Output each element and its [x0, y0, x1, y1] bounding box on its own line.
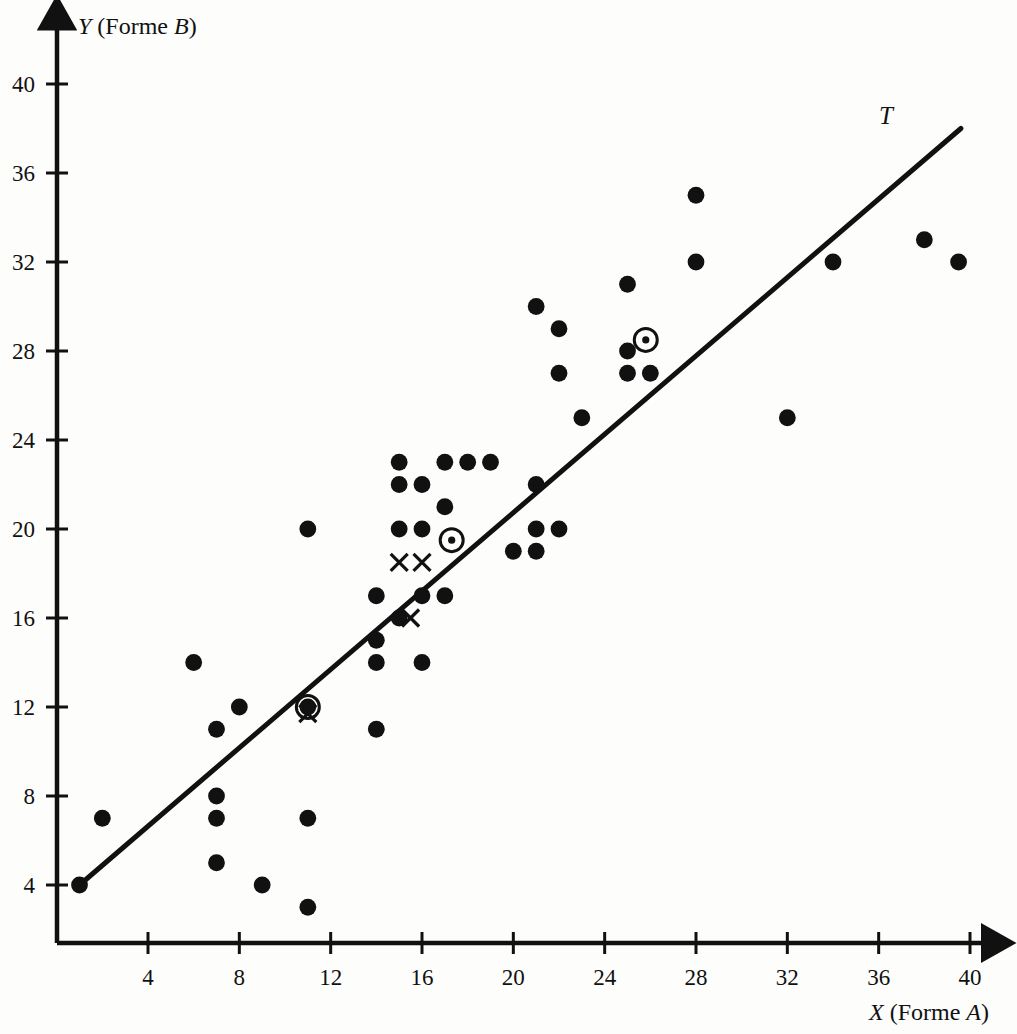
- data-point: [299, 810, 316, 827]
- data-point: [94, 810, 111, 827]
- data-point: [208, 721, 225, 738]
- y-axis-title-form: B: [174, 13, 189, 39]
- data-point: [185, 654, 202, 671]
- data-point: [505, 543, 522, 560]
- y-tick-label-20: 20: [12, 517, 35, 542]
- data-point: [414, 476, 431, 493]
- data-point: [528, 476, 545, 493]
- y-tick-label-40: 40: [12, 72, 35, 97]
- data-point: [573, 409, 590, 426]
- data-point: [528, 298, 545, 315]
- trend-line-group: [80, 129, 961, 886]
- x-axis-title-prefix: (Forme: [884, 999, 967, 1025]
- y-tick-label-16: 16: [12, 606, 35, 631]
- data-point: [950, 254, 967, 271]
- data-point: [825, 254, 842, 271]
- data-point: [299, 521, 316, 538]
- x-tick-label-36: 36: [867, 965, 890, 990]
- y-tick-label-28: 28: [12, 339, 35, 364]
- data-point: [916, 231, 933, 248]
- x-axis-ticks: 481216202428323640: [142, 932, 981, 990]
- data-point: [208, 854, 225, 871]
- data-point: [551, 320, 568, 337]
- y-axis-ticks: 481216202428323640: [12, 72, 68, 898]
- data-point: [254, 877, 271, 894]
- y-axis-title-suffix: ): [189, 13, 197, 39]
- y-tick-label-24: 24: [12, 428, 36, 453]
- data-point: [436, 498, 453, 515]
- y-tick-label-36: 36: [12, 161, 35, 186]
- x-tick-label-20: 20: [502, 965, 525, 990]
- data-point: [414, 521, 431, 538]
- cross-marker: [391, 554, 408, 571]
- data-point: [779, 409, 796, 426]
- data-point: [208, 788, 225, 805]
- x-tick-label-4: 4: [142, 965, 154, 990]
- data-point: [368, 721, 385, 738]
- data-point: [528, 543, 545, 560]
- circled-markers-group: [296, 328, 657, 718]
- data-point: [482, 454, 499, 471]
- x-axis-title: X (Forme A): [868, 999, 989, 1025]
- data-point: [231, 699, 248, 716]
- y-tick-label-8: 8: [24, 784, 36, 809]
- data-point: [414, 587, 431, 604]
- y-tick-label-4: 4: [24, 873, 36, 898]
- data-point: [414, 654, 431, 671]
- data-point: [368, 632, 385, 649]
- x-axis-title-symbol: X: [868, 999, 885, 1025]
- data-point: [299, 899, 316, 916]
- x-axis-title-suffix: ): [981, 999, 989, 1025]
- data-point: [642, 365, 659, 382]
- regression-trend-line: [80, 129, 961, 886]
- y-tick-label-12: 12: [12, 695, 35, 720]
- data-point: [619, 343, 636, 360]
- cross-marker: [414, 554, 431, 571]
- scatter-plot-figure: 481216202428323640 481216202428323640 Y …: [0, 0, 1017, 1034]
- data-point: [391, 454, 408, 471]
- data-point: [368, 587, 385, 604]
- data-point: [436, 587, 453, 604]
- x-tick-label-8: 8: [234, 965, 246, 990]
- y-axis-title: Y (Forme B): [78, 13, 197, 39]
- y-tick-label-32: 32: [12, 250, 35, 275]
- data-point: [436, 454, 453, 471]
- x-tick-label-12: 12: [319, 965, 342, 990]
- data-points-group: [71, 187, 967, 916]
- trend-line-label: T: [879, 102, 895, 129]
- data-point: [688, 254, 705, 271]
- x-axis-title-form: A: [964, 999, 981, 1025]
- y-axis-title-prefix: (Forme: [91, 13, 174, 39]
- data-point: [619, 276, 636, 293]
- data-point: [619, 365, 636, 382]
- x-tick-label-40: 40: [959, 965, 982, 990]
- circled-dot-marker: [634, 328, 657, 351]
- data-point: [368, 654, 385, 671]
- data-point: [528, 521, 545, 538]
- plot-canvas: 481216202428323640 481216202428323640 Y …: [0, 0, 1017, 1034]
- x-tick-label-28: 28: [685, 965, 708, 990]
- data-point: [391, 521, 408, 538]
- data-point: [551, 521, 568, 538]
- data-point: [459, 454, 476, 471]
- x-tick-label-24: 24: [593, 965, 617, 990]
- data-point: [71, 877, 88, 894]
- data-point: [208, 810, 225, 827]
- data-point: [391, 476, 408, 493]
- circled-dot-marker: [440, 529, 463, 552]
- x-tick-label-32: 32: [776, 965, 799, 990]
- data-point: [551, 365, 568, 382]
- data-point: [688, 187, 705, 204]
- x-tick-label-16: 16: [411, 965, 434, 990]
